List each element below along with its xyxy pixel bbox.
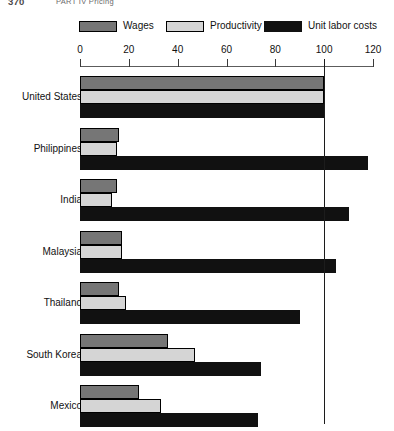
category-label: Malaysia [43, 246, 82, 257]
bar-productivity [80, 296, 126, 310]
bar-group: Malaysia [0, 231, 394, 273]
bar-chart: 020406080100120 United StatesPhilippines… [0, 0, 394, 431]
bar-unit-labor-costs [80, 104, 324, 118]
x-axis-tick-label: 0 [77, 44, 83, 55]
bar-wages [80, 76, 324, 90]
bar-group: Mexico [0, 385, 394, 427]
category-label: Thailand [44, 297, 82, 308]
bar-group: South Korea [0, 334, 394, 376]
x-axis-tick [275, 59, 276, 67]
bar-unit-labor-costs [80, 413, 258, 427]
bar-group: India [0, 179, 394, 221]
bar-wages [80, 282, 119, 296]
category-label: South Korea [26, 349, 82, 360]
bar-wages [80, 385, 139, 399]
bar-unit-labor-costs [80, 310, 300, 324]
x-axis-tick-label: 20 [123, 44, 134, 55]
category-label: Philippines [34, 143, 82, 154]
bar-productivity [80, 193, 112, 207]
x-axis-tick [178, 59, 179, 67]
x-axis-tick [373, 59, 374, 67]
category-label: India [60, 194, 82, 205]
bar-productivity [80, 90, 324, 104]
bar-unit-labor-costs [80, 259, 336, 273]
reference-line-100 [324, 59, 325, 424]
bar-group: Thailand [0, 282, 394, 324]
x-axis-tick-label: 80 [270, 44, 281, 55]
x-axis-tick [129, 59, 130, 67]
x-axis-tick [80, 59, 81, 67]
x-axis-tick-label: 120 [365, 44, 382, 55]
x-axis-tick-label: 40 [172, 44, 183, 55]
bar-unit-labor-costs [80, 207, 349, 221]
bar-wages [80, 231, 122, 245]
x-axis-tick-label: 60 [221, 44, 232, 55]
bar-wages [80, 179, 117, 193]
bar-productivity [80, 399, 161, 413]
bar-productivity [80, 245, 122, 259]
bar-productivity [80, 142, 117, 156]
category-label: Mexico [50, 400, 82, 411]
bar-group: Philippines [0, 128, 394, 170]
x-axis-tick-label: 100 [316, 44, 333, 55]
bar-group: United States [0, 76, 394, 118]
bar-unit-labor-costs [80, 362, 261, 376]
bar-wages [80, 334, 168, 348]
bar-productivity [80, 348, 195, 362]
category-label: United States [22, 91, 82, 102]
bar-wages [80, 128, 119, 142]
x-axis-tick [227, 59, 228, 67]
